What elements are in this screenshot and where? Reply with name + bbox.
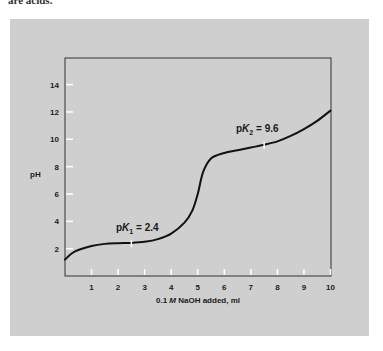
y-tick-label: 4 (55, 217, 60, 226)
x-tick-label: 10 (326, 283, 335, 292)
x-tick-label: 9 (302, 283, 307, 292)
y-tick-label: 8 (55, 163, 60, 172)
x-tick-label: 2 (116, 283, 121, 292)
x-tick-label: 4 (169, 283, 174, 292)
x-tick-label: 6 (222, 283, 227, 292)
pk-annotation-2: pK2 = 9.6 (236, 123, 279, 136)
pk-annotation-1: pK1 = 2.4 (116, 222, 159, 235)
titration-curve (65, 111, 331, 260)
x-tick-label: 7 (249, 283, 254, 292)
x-tick-label: 5 (196, 283, 201, 292)
y-tick-label: 10 (50, 135, 59, 144)
x-axis-title: 0.1 M NaOH added, ml (156, 296, 240, 305)
x-tick-label: 8 (275, 283, 280, 292)
x-tick-label: 3 (142, 283, 147, 292)
y-tick-label: 6 (55, 190, 60, 199)
y-tick-label: 2 (55, 245, 60, 254)
titration-chart: 246810121412345678910pH0.1 M NaOH added,… (0, 0, 383, 351)
y-tick-label: 14 (50, 81, 59, 90)
y-tick-label: 12 (50, 108, 59, 117)
y-axis-title: pH (30, 170, 41, 179)
x-tick-label: 1 (89, 283, 94, 292)
